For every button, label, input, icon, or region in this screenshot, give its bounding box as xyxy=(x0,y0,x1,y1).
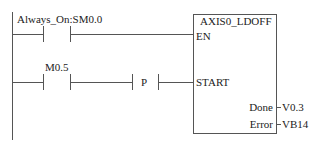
block-input-start: START xyxy=(196,76,229,88)
contact-left-bar xyxy=(43,74,44,90)
rung-1-wire-left xyxy=(12,34,43,35)
block-title: AXIS0_LDOFF xyxy=(200,15,272,27)
edge-label: P xyxy=(141,76,147,88)
left-power-rail xyxy=(12,12,13,140)
rung-1-wire-right xyxy=(70,34,193,35)
done-output-value: V0.3 xyxy=(282,101,304,113)
rung-2-wire-left xyxy=(12,82,43,83)
contact-label-always-on: Always_On:SM0.0 xyxy=(17,13,102,25)
error-output-tick xyxy=(277,124,281,125)
done-output-tick xyxy=(277,107,281,108)
rung-2-wire-right xyxy=(158,82,193,83)
block-input-en: EN xyxy=(196,30,211,42)
edge-left-bar xyxy=(132,74,133,90)
contact-label-m0-5: M0.5 xyxy=(45,61,69,73)
block-output-error: Error xyxy=(250,118,273,130)
contact-left-bar xyxy=(43,26,44,42)
rung-2-wire-mid xyxy=(70,82,132,83)
block-output-done: Done xyxy=(249,101,273,113)
error-output-value: VB14 xyxy=(282,118,308,130)
